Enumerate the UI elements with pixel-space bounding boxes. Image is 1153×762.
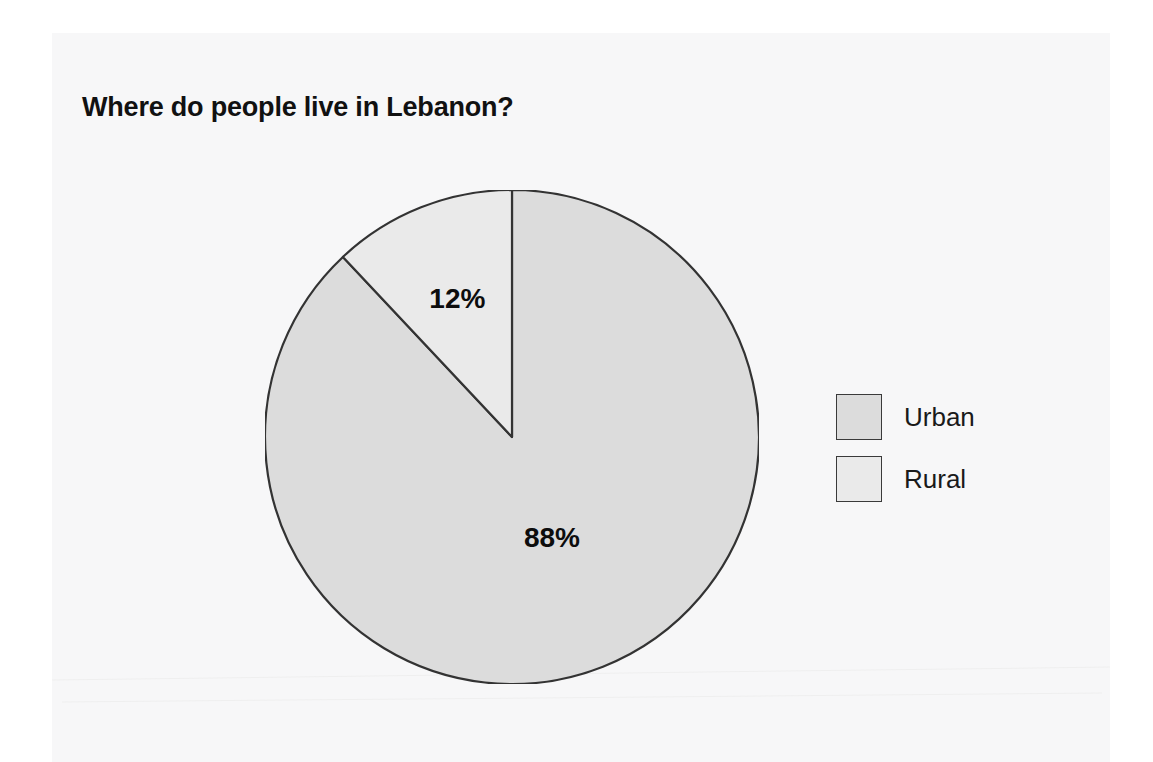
chart-legend: Urban Rural <box>836 393 1066 517</box>
pie-chart: 12% 88% <box>265 190 759 684</box>
legend-label-urban: Urban <box>904 404 975 430</box>
pie-chart-graphic <box>265 190 759 684</box>
legend-item-rural[interactable]: Rural <box>836 455 1066 503</box>
chart-title: Where do people live in Lebanon? <box>82 92 514 123</box>
pie-label-rural: 12% <box>429 283 485 315</box>
legend-label-rural: Rural <box>904 466 966 492</box>
pie-label-urban: 88% <box>524 522 580 554</box>
legend-item-urban[interactable]: Urban <box>836 393 1066 441</box>
screenshot-canvas: Where do people live in Lebanon? 12% 88%… <box>0 0 1153 762</box>
legend-swatch-rural <box>836 456 882 502</box>
legend-swatch-urban <box>836 394 882 440</box>
scan-artifact-line <box>62 692 1102 702</box>
